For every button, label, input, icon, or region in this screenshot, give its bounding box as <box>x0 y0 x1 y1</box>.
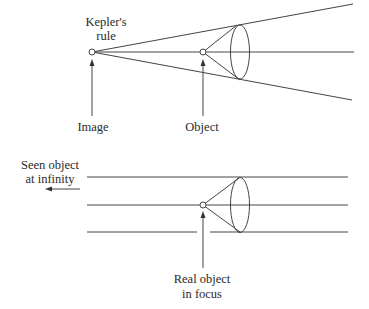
object-label: Object <box>185 120 219 134</box>
object-point-icon <box>200 49 206 55</box>
seen-object-label-line2: at infinity <box>26 172 76 186</box>
kepler-label-line1: Kepler's <box>85 15 126 29</box>
optics-diagram: Kepler's rule Image Object Seen object a… <box>0 0 369 309</box>
seen-object-label-line1: Seen object <box>21 158 79 172</box>
image-point-icon <box>89 49 95 55</box>
real-object-point-icon <box>200 202 206 208</box>
real-object-label-line2: in focus <box>182 287 222 301</box>
lower-ray <box>92 52 352 100</box>
focus-ray-upper <box>203 178 239 205</box>
infinity-focus-diagram: Seen object at infinity Real object in f… <box>21 158 348 301</box>
kepler-label-line2: rule <box>96 29 116 43</box>
real-object-label-line1: Real object <box>174 272 231 286</box>
upper-ray <box>92 4 353 52</box>
kepler-diagram: Kepler's rule Image Object <box>77 4 354 134</box>
image-label: Image <box>77 120 109 134</box>
